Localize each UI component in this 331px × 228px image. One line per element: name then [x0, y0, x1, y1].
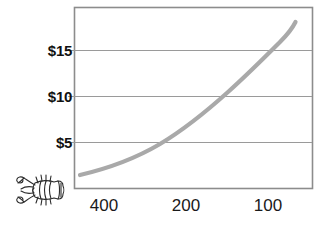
x-tick-label-100: 100: [238, 197, 298, 215]
x-tick-label-400: 400: [74, 197, 134, 215]
chart-figure: $15 $10 $5 400 200 100: [0, 0, 331, 228]
x-tick-label-200: 200: [156, 197, 216, 215]
lobster-icon: [11, 166, 69, 214]
